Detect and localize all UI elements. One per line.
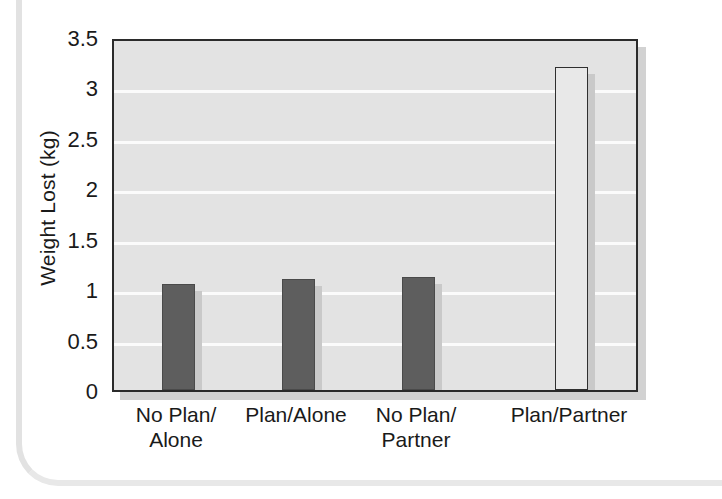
y-axis-tick-label: 0.5 (28, 329, 98, 355)
y-axis-tick-label: 3 (28, 76, 98, 102)
y-axis-tick-label: 3.5 (28, 26, 98, 52)
bar[interactable] (162, 284, 195, 390)
bar-fill (402, 277, 435, 390)
plot-area (112, 39, 638, 392)
y-axis-tick-label: 2.5 (28, 127, 98, 153)
bar[interactable] (282, 279, 315, 390)
x-axis-category-label: Plan/Partner (489, 402, 649, 427)
bar-fill (282, 279, 315, 390)
y-axis-tick-label: 0 (28, 379, 98, 405)
bar[interactable] (402, 277, 435, 390)
y-axis-tick-label: 1 (28, 278, 98, 304)
y-axis-tick-label: 2 (28, 177, 98, 203)
bar-fill (555, 67, 588, 390)
bar-fill (162, 284, 195, 390)
y-axis-tick-label: 1.5 (28, 228, 98, 254)
x-axis-category-label: No Plan/ Partner (336, 402, 496, 452)
bar[interactable] (555, 67, 588, 390)
